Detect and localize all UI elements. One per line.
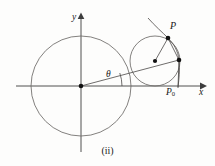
y-axis-arrowhead	[78, 13, 85, 20]
x-axis-label: x	[199, 88, 203, 98]
figure-container: y x P P0 θ (ii)	[0, 0, 215, 166]
theta-angle-label: θ	[106, 70, 111, 80]
figure-caption: (ii)	[0, 145, 215, 156]
point-p0-subscript: 0	[172, 90, 175, 97]
rolling-center-marker	[153, 59, 157, 63]
point-p0-label: P0	[166, 88, 175, 98]
epicycloid-diagram	[0, 0, 215, 166]
y-axis-group	[78, 13, 85, 153]
origin-marker	[79, 84, 84, 89]
point-p-label: P	[170, 21, 176, 31]
chord-center-to-p	[155, 38, 168, 61]
contact-point-marker	[177, 58, 182, 63]
y-axis-label: y	[72, 13, 76, 23]
point-p-marker	[166, 36, 171, 41]
p0-vertical-segment	[178, 60, 179, 88]
